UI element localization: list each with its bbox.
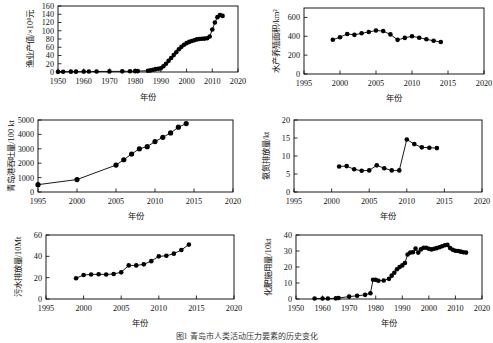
y-tick-label: 600 (288, 13, 300, 22)
series-line (58, 15, 223, 72)
figure-caption: 图1 青岛市人类活动压力要素的历史变化 (0, 330, 493, 343)
x-tick-label: 2000 (323, 197, 339, 206)
y-axis-title: 污水排放量/10Mt (13, 236, 23, 297)
chart-panel-fertilizer-application: 1950196019701980199020002010202001020304… (246, 227, 493, 335)
x-tick-label: 2005 (108, 197, 124, 206)
y-tick-label: 20 (284, 263, 292, 272)
data-point (160, 135, 165, 140)
data-point (121, 157, 126, 162)
data-point (104, 272, 109, 277)
y-tick-label: 10 (282, 152, 290, 161)
data-point (359, 31, 364, 36)
x-tick-label: 2010 (151, 304, 167, 313)
data-point (405, 137, 410, 142)
data-point (337, 164, 342, 169)
y-tick-label: 20 (34, 274, 42, 283)
data-point (184, 121, 189, 126)
x-tick-label: 2020 (474, 304, 490, 313)
data-point (331, 37, 336, 42)
x-tick-label: 1970 (341, 304, 357, 313)
data-point (359, 168, 364, 173)
x-tick-label: 1960 (314, 304, 330, 313)
x-tick-label: 2010 (147, 197, 163, 206)
chart-panel-fishery-output-value: 1950196019701980199020002010202002040608… (0, 0, 247, 112)
data-point (326, 296, 331, 301)
data-point (381, 278, 386, 283)
data-point (187, 242, 192, 247)
chart-svg-wastewater-discharge: 1995200020052010201520200204060年份污水排放量/1… (0, 227, 247, 335)
data-point (424, 37, 429, 42)
data-point (172, 251, 177, 256)
data-point (403, 36, 408, 41)
data-point (35, 182, 40, 187)
series-line (315, 245, 466, 299)
y-tick-label: 0 (296, 70, 300, 79)
data-point (352, 167, 357, 172)
y-tick-label: 40 (34, 252, 42, 261)
data-point (113, 162, 118, 167)
y-tick-label: 400 (288, 32, 300, 41)
y-tick-label: 4000 (18, 130, 34, 139)
y-tick-label: 80 (46, 35, 54, 44)
data-point (74, 69, 79, 74)
series-line (339, 139, 437, 170)
data-point (344, 164, 349, 169)
data-point (179, 248, 184, 253)
x-tick-label: 1995 (38, 304, 54, 313)
data-point (157, 254, 162, 259)
data-point (152, 139, 157, 144)
y-tick-label: 140 (42, 10, 54, 19)
x-tick-label: 2015 (440, 79, 456, 88)
x-tick-label: 2000 (69, 197, 85, 206)
data-point (367, 168, 372, 173)
data-point (374, 28, 379, 33)
data-point (96, 272, 101, 277)
y-tick-label: 2000 (18, 159, 34, 168)
y-tick-label: 200 (288, 51, 300, 60)
data-point (427, 145, 432, 150)
x-axis-title: 年份 (140, 92, 157, 102)
data-point (81, 273, 86, 278)
plot-frame (58, 6, 238, 72)
y-tick-label: 15 (282, 134, 290, 143)
y-tick-label: 20 (282, 116, 290, 125)
data-point (107, 69, 112, 74)
data-point (119, 270, 124, 275)
x-tick-label: 1995 (30, 197, 46, 206)
y-tick-label: 0 (38, 295, 42, 304)
x-tick-label: 2015 (186, 197, 202, 206)
y-tick-label: 1000 (18, 174, 34, 183)
x-tick-label: 2000 (332, 79, 348, 88)
data-point (336, 296, 341, 301)
data-point (134, 263, 139, 268)
data-point (412, 142, 417, 147)
y-axis-title: 氨氮排放量/kt (261, 131, 271, 181)
data-point (420, 145, 425, 150)
data-point (164, 254, 169, 259)
x-tick-label: 2005 (368, 79, 384, 88)
x-tick-label: 2000 (421, 304, 437, 313)
plot-frame (296, 235, 482, 299)
y-axis-title: 水产养殖面积/km² (271, 9, 281, 73)
data-point (87, 69, 92, 74)
chart-panel-wastewater-discharge: 1995200020052010201520200204060年份污水排放量/1… (0, 227, 247, 335)
y-tick-label: 100 (42, 27, 54, 36)
x-tick-label: 1995 (286, 197, 302, 206)
data-point (176, 125, 181, 130)
data-point (126, 263, 131, 268)
x-tick-label: 1990 (153, 77, 169, 86)
data-point (129, 151, 134, 156)
chart-panel-ammonia-nitrogen-discharge: 19952000200520102015202005101520年份氨氮排放量/… (246, 112, 493, 227)
x-tick-label: 1970 (101, 77, 117, 86)
y-tick-label: 0 (50, 68, 54, 77)
data-point (413, 246, 418, 251)
x-tick-label: 2000 (75, 304, 91, 313)
data-point (120, 69, 125, 74)
data-point (74, 177, 79, 182)
data-point (312, 296, 317, 301)
x-tick-label: 1960 (76, 77, 92, 86)
plot-frame (46, 235, 234, 299)
x-tick-label: 2010 (204, 77, 220, 86)
y-tick-label: 60 (34, 231, 42, 240)
data-point (149, 259, 154, 264)
